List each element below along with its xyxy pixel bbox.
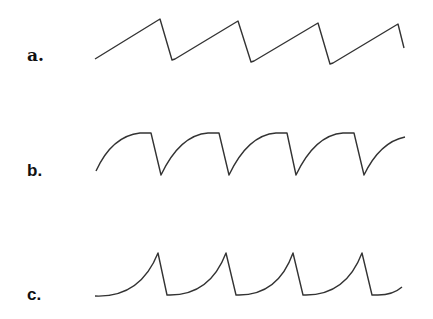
- waveform-b: [96, 133, 405, 175]
- waveform-a: [95, 19, 404, 64]
- waveform-c: [95, 253, 402, 296]
- waveform-figure: [0, 0, 433, 319]
